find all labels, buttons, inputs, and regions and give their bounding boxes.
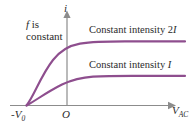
curve-label-constant-intensity-2i: Constant intensity 2I [89, 24, 177, 36]
x-axis-label-main: V [172, 104, 179, 116]
frequency-constant-note: f is constant [26, 18, 63, 43]
frequency-note-line1-rest: is [29, 18, 39, 30]
x-axis [10, 102, 176, 109]
photocurrent-voltage-chart: f is constant Constant intensity 2I Cons… [0, 0, 193, 129]
frequency-note-line2: constant [26, 30, 63, 42]
intensity-symbol-i: I [168, 59, 172, 70]
curve-label-i-text: Constant intensity [89, 59, 168, 70]
x-axis-label: VAC [172, 104, 188, 120]
x-axis-label-subscript: AC [179, 110, 189, 119]
y-axis-label: i [64, 2, 67, 14]
y-axis [63, 11, 70, 106]
curve-label-2i-text: Constant intensity 2 [89, 24, 173, 35]
intensity-symbol-2i: I [173, 24, 177, 35]
curve-constant-intensity-i [27, 76, 186, 106]
x-tick-v0-main: -V [11, 108, 21, 120]
curve-constant-intensity-2i [27, 41, 186, 105]
x-tick-v0-subscript: 0 [21, 114, 25, 123]
x-tick-label-origin: O [62, 108, 70, 120]
x-tick-label-stopping-voltage: -V0 [11, 108, 25, 124]
curve-label-constant-intensity-i: Constant intensity I [89, 59, 171, 71]
